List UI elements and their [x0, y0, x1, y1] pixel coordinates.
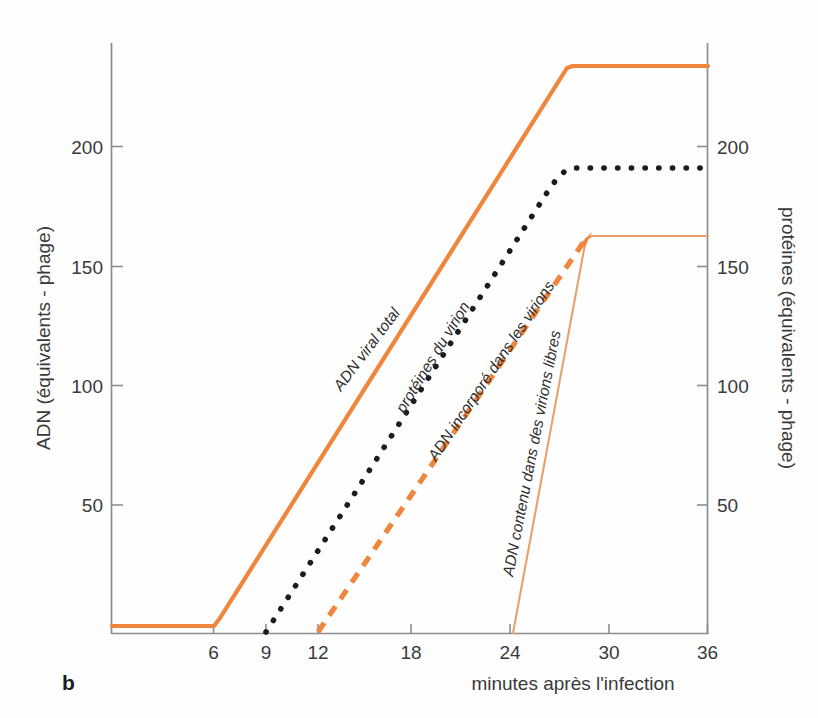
x-tick-label-36: 36: [697, 642, 718, 663]
right-tick-label-50: 50: [717, 495, 738, 516]
x-tick-label-30: 30: [598, 642, 619, 663]
left-axis-title: ADN (équivalents - phage): [33, 226, 54, 450]
x-tick-label-9: 9: [261, 642, 272, 663]
curve-label-adn-contenu: ADN contenu dans des virions libres: [499, 329, 564, 579]
left-axis-ticks: 50 100 150 200: [71, 137, 123, 517]
left-tick-label-100: 100: [71, 376, 103, 397]
series-proteines-du-virion: [266, 168, 708, 632]
panel-label-b: b: [62, 671, 75, 694]
right-tick-label-200: 200: [717, 137, 749, 158]
series-adn-viral-total: [112, 66, 708, 626]
x-tick-label-24: 24: [499, 642, 521, 663]
axis-group: [112, 43, 709, 634]
left-tick-label-200: 200: [71, 137, 103, 158]
bottom-axis-title: minutes après l'infection: [471, 673, 674, 694]
x-tick-label-6: 6: [208, 642, 219, 663]
right-axis-title: protéines (équivalents - phage): [778, 207, 799, 469]
figure-panel: 50 100 150 200 50 100 150 200 6 9: [0, 0, 818, 718]
curve-label-proteines-du-virion: protéines du virion: [392, 299, 473, 417]
x-tick-label-12: 12: [307, 642, 328, 663]
right-axis-ticks: 50 100 150 200: [697, 137, 749, 517]
left-tick-label-150: 150: [71, 257, 103, 278]
bottom-axis-ticks: 6 9 12 18 24 30 36: [208, 624, 718, 663]
series-junction-tip: [578, 232, 592, 247]
curve-label-adn-viral-total: ADN viral total: [329, 304, 403, 395]
left-tick-label-50: 50: [82, 495, 103, 516]
chart-canvas: 50 100 150 200 50 100 150 200 6 9: [0, 0, 818, 718]
x-tick-label-18: 18: [400, 642, 421, 663]
right-tick-label-150: 150: [717, 257, 749, 278]
right-tick-label-100: 100: [717, 376, 749, 397]
